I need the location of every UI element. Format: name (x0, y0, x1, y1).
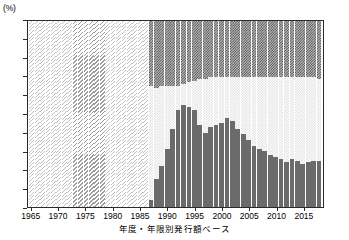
bar-segment-short-term (300, 164, 305, 207)
bar-segment-medium-term (187, 82, 192, 106)
bar-column (46, 21, 51, 207)
x-axis-tick-label: 1980 (103, 212, 122, 221)
bar-segment-short-term (181, 105, 186, 207)
x-axis-tick-label: 1985 (131, 212, 150, 221)
bar-segment-medium-term (122, 21, 127, 207)
bar-column (214, 21, 219, 207)
bar-column (295, 21, 300, 207)
y-axis: 0102030405060708090100 (0, 0, 27, 228)
bar-column (149, 21, 154, 207)
bar-segment-medium-term (241, 77, 246, 135)
bar-segment-long-term (317, 21, 322, 79)
bar-column (284, 21, 289, 207)
x-axis-tick-label: 1990 (158, 212, 177, 221)
bar-column (132, 21, 137, 207)
bar-segment-long-term (159, 21, 164, 86)
bar-column (290, 21, 295, 207)
bar-column (122, 21, 127, 207)
bar-segment-medium-term (149, 86, 154, 199)
bar-segment-medium-term (246, 77, 251, 140)
bar-column (235, 21, 240, 207)
bars-layer (28, 21, 323, 207)
x-axis-tick-label: 2015 (294, 212, 313, 221)
bar-segment-medium-term (311, 77, 316, 161)
bar-column (208, 21, 213, 207)
x-axis-tick-label: 2005 (240, 212, 259, 221)
bar-column (317, 21, 322, 207)
bar-column (94, 21, 99, 207)
bar-column (181, 21, 186, 207)
x-axis-tick-label: 1970 (49, 212, 68, 221)
bar-segment-long-term (176, 21, 181, 86)
bar-segment-short-term (268, 155, 273, 207)
bar-segment-medium-term (89, 21, 94, 207)
bar-segment-short-term (197, 125, 202, 207)
bar-column (203, 21, 208, 207)
bar-segment-short-term (225, 118, 230, 207)
bar-segment-short-term (284, 162, 289, 207)
bar-segment-short-term (317, 161, 322, 208)
bar-segment-short-term (306, 162, 311, 207)
bar-segment-long-term (154, 21, 159, 88)
bar-column (241, 21, 246, 207)
bar-segment-medium-term (143, 21, 148, 207)
bar-segment-short-term (154, 179, 159, 207)
bar-column (105, 21, 110, 207)
bar-segment-long-term (311, 21, 316, 77)
bar-segment-long-term (246, 21, 251, 77)
bar-column (197, 21, 202, 207)
bar-segment-short-term (170, 129, 175, 207)
bar-segment-medium-term (56, 21, 61, 207)
bar-segment-medium-term (159, 86, 164, 166)
bar-segment-long-term (295, 21, 300, 77)
bar-segment-medium-term (111, 21, 116, 207)
bar-segment-medium-term (138, 21, 143, 207)
bar-segment-short-term (203, 133, 208, 207)
bar-segment-medium-term (197, 79, 202, 126)
bar-segment-short-term (257, 149, 262, 207)
bar-column (279, 21, 284, 207)
bar-column (154, 21, 159, 207)
bar-column (176, 21, 181, 207)
bar-segment-medium-term (29, 21, 34, 207)
bar-segment-short-term (252, 146, 257, 207)
bar-segment-medium-term (132, 21, 137, 207)
bar-segment-medium-term (67, 21, 72, 207)
bar-column (35, 21, 40, 207)
bar-column (187, 21, 192, 207)
bar-segment-short-term (149, 200, 154, 207)
bar-segment-short-term (165, 149, 170, 207)
bar-segment-medium-term (208, 77, 213, 127)
bar-column (127, 21, 132, 207)
x-axis-tick-label: 2010 (267, 212, 286, 221)
bar-segment-medium-term (94, 21, 99, 207)
bar-column (273, 21, 278, 207)
bar-segment-long-term (252, 21, 257, 77)
bar-segment-medium-term (300, 77, 305, 164)
stacked-bar-chart: (%) 0102030405060708090100 1965197019751… (0, 0, 349, 240)
bar-column (78, 21, 83, 207)
x-axis-tick-label: 1975 (76, 212, 95, 221)
bar-column (192, 21, 197, 207)
bar-column (252, 21, 257, 207)
bar-segment-short-term (279, 159, 284, 207)
bar-segment-short-term (273, 157, 278, 207)
bar-segment-short-term (159, 166, 164, 207)
bar-column (246, 21, 251, 207)
bar-segment-long-term (203, 21, 208, 79)
bar-segment-long-term (241, 21, 246, 77)
bar-column (89, 21, 94, 207)
bar-segment-medium-term (62, 21, 67, 207)
bar-column (67, 21, 72, 207)
bar-column (306, 21, 311, 207)
bar-segment-medium-term (203, 79, 208, 133)
bar-segment-medium-term (230, 77, 235, 122)
bar-segment-long-term (290, 21, 295, 77)
bar-segment-medium-term (268, 77, 273, 155)
bar-segment-short-term (246, 140, 251, 207)
bar-segment-short-term (176, 110, 181, 207)
bar-segment-medium-term (181, 84, 186, 104)
bar-segment-medium-term (73, 21, 78, 207)
bar-segment-long-term (262, 21, 267, 77)
x-axis-tick-label: 1965 (21, 212, 40, 221)
